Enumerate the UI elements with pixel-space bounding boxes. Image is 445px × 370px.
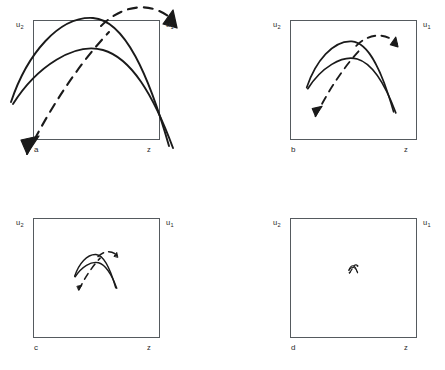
panel-b-label-z: z	[404, 146, 408, 154]
panel-a-label-u2-subscript: 2	[20, 24, 23, 30]
panel-a-label-u1: u1	[166, 21, 174, 29]
panel-a-letter-text: a	[34, 145, 39, 154]
panel-d-letter: d	[291, 344, 296, 352]
panel-c-label-u1-subscript: 1	[170, 222, 173, 228]
panel-d-label-u1: u1	[423, 219, 431, 227]
panel-d-label-u1-subscript: 1	[427, 222, 430, 228]
panel-d-label-u2-subscript: 2	[277, 222, 280, 228]
panel-b-label-u2: u2	[273, 21, 281, 29]
panel-a	[33, 20, 160, 140]
panel-a-label-u2: u2	[16, 21, 24, 29]
panel-a-letter: a	[34, 146, 39, 154]
panel-d	[290, 218, 417, 338]
panel-c-label-z: z	[147, 344, 151, 352]
panel-box-c	[33, 218, 160, 338]
panel-box-a	[33, 20, 160, 140]
panel-c-label-z-text: z	[147, 343, 151, 352]
panel-b-letter: b	[291, 146, 296, 154]
panel-a-label-u1-subscript: 1	[170, 24, 173, 30]
panel-b-letter-text: b	[291, 145, 296, 154]
panel-a-label-z-text: z	[147, 145, 151, 154]
panel-box-d	[290, 218, 417, 338]
panel-b-label-u1: u1	[423, 21, 431, 29]
panel-c-label-u1: u1	[166, 219, 174, 227]
panel-d-letter-text: d	[291, 343, 296, 352]
panel-c-label-u2: u2	[16, 219, 24, 227]
panel-b	[290, 20, 417, 140]
panel-c-letter: c	[34, 344, 38, 352]
panel-a-label-z: z	[147, 146, 151, 154]
panel-d-label-z: z	[404, 344, 408, 352]
panel-d-label-u2: u2	[273, 219, 281, 227]
panel-b-label-u1-subscript: 1	[427, 24, 430, 30]
panel-box-b	[290, 20, 417, 140]
panel-c-letter-text: c	[34, 343, 38, 352]
panel-b-label-u2-subscript: 2	[277, 24, 280, 30]
panel-d-label-z-text: z	[404, 343, 408, 352]
panel-c	[33, 218, 160, 338]
figure-root: u2u1azu2u1bzu2u1czu2u1dz	[0, 0, 445, 370]
panel-c-label-u2-subscript: 2	[20, 222, 23, 228]
panel-b-label-z-text: z	[404, 145, 408, 154]
